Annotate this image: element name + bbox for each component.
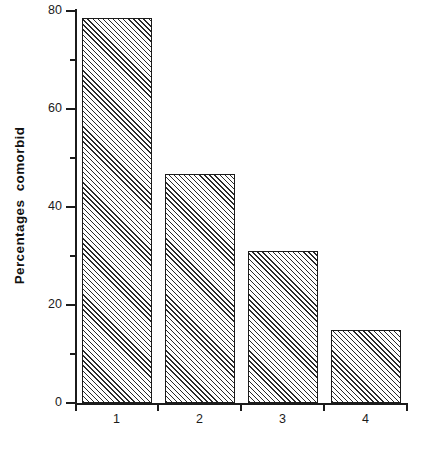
x-axis-tick: [240, 403, 242, 411]
bar: [248, 251, 318, 403]
bar: [331, 330, 401, 403]
x-axis-tick-label: 3: [268, 412, 298, 426]
bar-chart-figure: Percentages comorbid 020406080 1234: [0, 0, 425, 451]
x-axis-tick: [406, 403, 408, 411]
y-axis-tick-label: 80: [34, 4, 62, 17]
y-axis-tick-label: 40: [34, 200, 62, 213]
x-axis-tick: [323, 403, 325, 411]
y-axis-tick-label: 20: [34, 298, 62, 311]
x-axis-tick: [157, 403, 159, 411]
bar: [82, 18, 152, 403]
y-axis-tick-label: 0: [34, 396, 62, 409]
bar: [165, 174, 235, 403]
y-axis-title-text: Percentages comorbid: [13, 126, 28, 284]
x-axis-tick-label: 1: [102, 412, 132, 426]
x-axis-tick-label: 4: [351, 412, 381, 426]
x-axis-tick-label: 2: [185, 412, 215, 426]
x-axis-origin-tick: [75, 403, 77, 411]
y-axis-tick-label: 60: [34, 102, 62, 115]
plot-area: [75, 11, 407, 403]
